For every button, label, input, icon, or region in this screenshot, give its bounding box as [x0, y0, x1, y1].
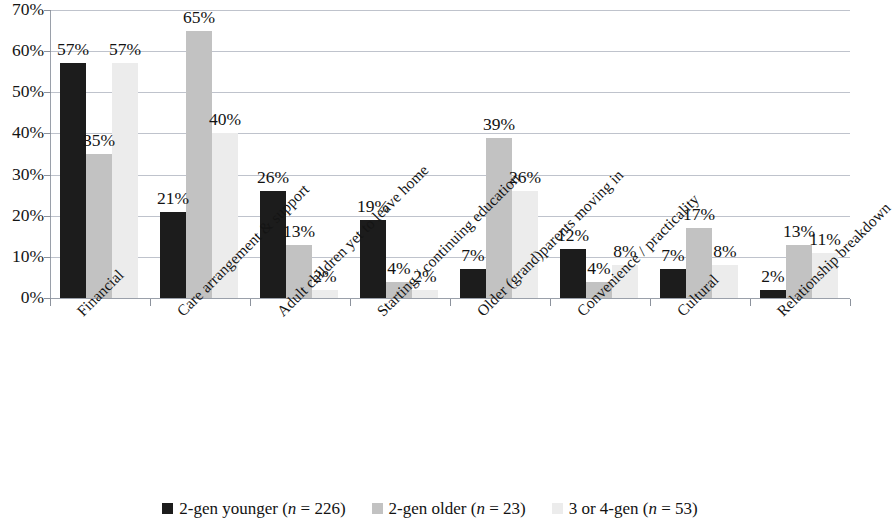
x-axis-tick [650, 299, 651, 306]
bar-value-label: 13% [276, 223, 322, 241]
gridline [50, 10, 850, 11]
bar-value-label: 21% [150, 190, 196, 208]
bar [186, 31, 212, 298]
gridline [50, 51, 850, 52]
legend-label: 2-gen older (n = 23) [389, 500, 526, 517]
bar [660, 269, 686, 298]
bar-value-label: 57% [102, 41, 148, 59]
x-axis-tick [850, 299, 851, 306]
legend-label: 3 or 4-gen (n = 53) [569, 500, 698, 517]
x-axis-tick [250, 299, 251, 306]
x-axis-tick [150, 299, 151, 306]
y-axis-label: 70% [0, 1, 44, 19]
y-axis-label: 60% [0, 42, 44, 60]
bar [460, 269, 486, 298]
legend-label: 2-gen younger (n = 226) [179, 500, 345, 517]
gridline [50, 92, 850, 93]
y-axis-tick [44, 216, 51, 217]
bar-value-label: 40% [202, 111, 248, 129]
y-axis-tick [44, 133, 51, 134]
bar-value-label: 39% [476, 116, 522, 134]
chart-legend: 2-gen younger (n = 226)2-gen older (n = … [0, 500, 860, 517]
y-axis-tick [44, 92, 51, 93]
x-axis-tick [50, 299, 51, 306]
bar-value-label: 65% [176, 9, 222, 27]
bar [412, 290, 438, 298]
x-axis-tick [450, 299, 451, 306]
bar-value-label: 57% [50, 41, 96, 59]
bar-value-label: 35% [76, 132, 122, 150]
y-axis-label: 0% [0, 289, 44, 307]
x-axis-tick [750, 299, 751, 306]
y-axis-tick [44, 10, 51, 11]
legend-item[interactable]: 2-gen younger (n = 226) [162, 500, 345, 517]
legend-swatch-icon [552, 503, 563, 514]
bar-value-label: 2% [750, 268, 796, 286]
bar-value-label: 7% [450, 247, 496, 265]
x-axis-tick [550, 299, 551, 306]
y-axis-label: 30% [0, 166, 44, 184]
bar [160, 212, 186, 298]
y-axis-label: 50% [0, 84, 44, 102]
y-axis-label: 10% [0, 248, 44, 266]
bar-value-label: 26% [250, 169, 296, 187]
bar [60, 63, 86, 298]
bar-value-label: 8% [702, 243, 748, 261]
y-axis-label: 20% [0, 207, 44, 225]
bar-value-label: 7% [650, 247, 696, 265]
legend-item[interactable]: 2-gen older (n = 23) [372, 500, 526, 517]
bar [312, 290, 338, 298]
gridline [50, 175, 850, 176]
bar [112, 63, 138, 298]
y-axis-tick [44, 257, 51, 258]
legend-item[interactable]: 3 or 4-gen (n = 53) [552, 500, 698, 517]
y-axis-label: 40% [0, 125, 44, 143]
x-axis-tick [350, 299, 351, 306]
y-axis-tick [44, 175, 51, 176]
gridline [50, 133, 850, 134]
legend-swatch-icon [162, 503, 173, 514]
legend-swatch-icon [372, 503, 383, 514]
